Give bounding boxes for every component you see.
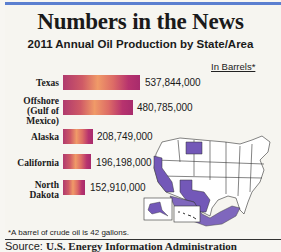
page-title: Numbers in the News	[0, 9, 281, 35]
footnote: *A barrel of crude oil is 42 gallons.	[8, 228, 129, 237]
bar-offshore	[63, 100, 133, 115]
bar-label-california: California	[17, 158, 59, 168]
north-dakota-shape	[186, 142, 202, 154]
bar-label-alaska: Alaska	[31, 132, 59, 142]
bar-label-north-dakota: North Dakota	[29, 180, 59, 200]
bar-north-dakota	[63, 180, 85, 195]
units-label: In Barrels*	[211, 61, 255, 72]
bar-label-texas: Texas	[36, 78, 59, 88]
bar-value-offshore: 480,785,000	[137, 102, 193, 113]
source-line: Source: U.S. Energy Information Administ…	[5, 240, 237, 252]
bar-label-offshore: Offshore (Gulf of Mexico)	[23, 96, 59, 126]
us-map-illustration	[140, 120, 281, 230]
bar-value-north-dakota: 152,910,000	[90, 182, 146, 193]
bar-california	[63, 154, 91, 169]
bar-value-texas: 537,844,000	[145, 77, 201, 88]
chart-subtitle: 2011 Annual Oil Production by State/Area	[0, 38, 281, 50]
bar-alaska	[63, 129, 93, 144]
bar-texas	[63, 75, 140, 90]
hawaii-inset	[174, 206, 200, 222]
